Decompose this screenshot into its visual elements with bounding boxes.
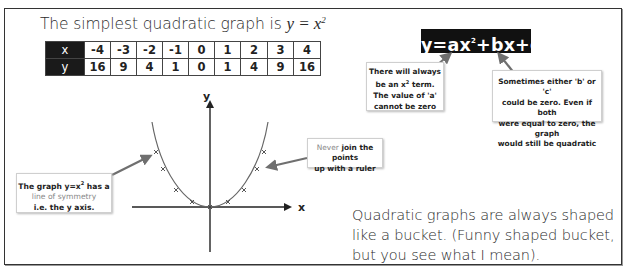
note-line: The value of 'a' — [367, 91, 443, 101]
x-axis-label: x — [298, 201, 305, 214]
note-line: were equal to zero, the graph — [493, 119, 601, 140]
note-line: There will always — [367, 67, 443, 77]
note-emphasis: Never — [317, 143, 339, 152]
note-line: could be zero. Even if both — [493, 98, 601, 119]
bucket-explanation: Quadratic graphs are always shaped like … — [352, 205, 614, 265]
arrow-symmetry-note — [112, 156, 150, 175]
a-term-note: There will always be an x2 term. The val… — [366, 62, 444, 111]
note-line: Sometimes either 'b' or 'c' — [493, 77, 601, 98]
bucket-line: but you see what I mean). — [352, 245, 614, 265]
note-line: Never join the points — [308, 143, 382, 164]
note-text: be an x — [375, 81, 405, 90]
note-text: The graph y=x — [18, 182, 80, 191]
note-line: up with a ruler — [308, 164, 382, 174]
note-line: cannot be zero — [367, 102, 443, 112]
note-line: line of symmetry — [17, 192, 111, 203]
note-text: join the points — [332, 143, 373, 162]
note-line: i.e. the y axis. — [17, 203, 111, 214]
bucket-line: like a bucket. (Funny shaped bucket, — [352, 225, 614, 245]
arrow-ruler-note — [268, 158, 307, 167]
note-text: term. — [409, 81, 434, 90]
y-axis-label: y — [203, 90, 210, 103]
note-text: has a — [84, 182, 109, 191]
ruler-note: Never join the points up with a ruler — [307, 138, 383, 168]
b-c-zero-note: Sometimes either 'b' or 'c' could be zer… — [492, 70, 602, 122]
note-line: The graph y=x2 has a — [17, 178, 111, 192]
symmetry-note: The graph y=x2 has a line of symmetry i.… — [16, 173, 112, 213]
point-cross — [154, 150, 158, 154]
note-line: would still be quadratic — [493, 139, 601, 149]
note-line: be an x2 term. — [367, 77, 443, 91]
bucket-line: Quadratic graphs are always shaped — [352, 205, 614, 225]
